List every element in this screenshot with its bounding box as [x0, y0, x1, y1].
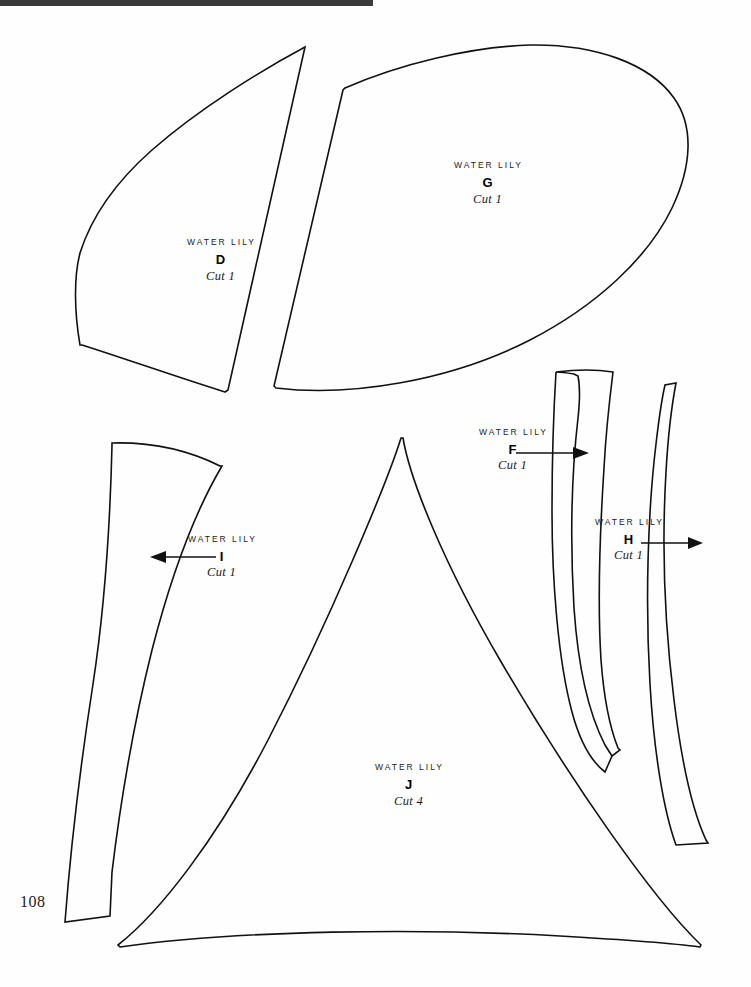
piece-outline-D	[76, 47, 306, 392]
piece-title-F: WATER LILY	[440, 428, 585, 437]
piece-title-J: WATER LILY	[336, 763, 481, 772]
page-number: 108	[20, 893, 46, 911]
piece-title-D: WATER LILY	[148, 238, 293, 247]
piece-letter-I: I	[155, 550, 288, 563]
piece-letter-D: D	[148, 253, 293, 266]
piece-cut-G: Cut 1	[415, 193, 560, 206]
piece-letter-J: J	[336, 778, 481, 791]
pattern-sheet-page: WATER LILY D Cut 1 WATER LILY G Cut 1 WA…	[0, 0, 751, 987]
piece-title-G: WATER LILY	[415, 161, 560, 170]
piece-label-G: WATER LILY G Cut 1	[415, 161, 560, 205]
piece-title-H: WATER LILY	[565, 518, 692, 527]
pattern-pieces-drawing	[0, 0, 751, 987]
piece-cut-J: Cut 4	[336, 795, 481, 808]
piece-outline-H	[648, 383, 708, 845]
piece-cut-H: Cut 1	[565, 549, 692, 562]
piece-label-H: WATER LILY H Cut 1	[565, 518, 692, 561]
piece-label-J: WATER LILY J Cut 4	[336, 763, 481, 807]
piece-cut-D: Cut 1	[148, 270, 293, 283]
piece-letter-G: G	[415, 176, 560, 189]
piece-letter-H: H	[565, 533, 692, 546]
piece-outline-I	[65, 443, 222, 922]
piece-cut-F: Cut 1	[440, 459, 585, 472]
piece-label-I: WATER LILY I Cut 1	[155, 535, 288, 578]
piece-letter-F: F	[440, 443, 585, 456]
piece-label-D: WATER LILY D Cut 1	[148, 238, 293, 282]
piece-label-F: WATER LILY F Cut 1	[440, 428, 585, 471]
piece-outline-J	[118, 438, 701, 947]
piece-title-I: WATER LILY	[155, 535, 288, 544]
piece-outline-G	[274, 45, 688, 390]
piece-cut-I: Cut 1	[155, 566, 288, 579]
